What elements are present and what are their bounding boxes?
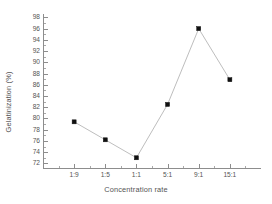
y-tick-label: 92 [33, 48, 40, 55]
y-tick-label: 90 [33, 59, 40, 66]
y-tick-label: 82 [33, 104, 40, 111]
y-tick-label: 76 [33, 138, 40, 145]
data-point [197, 27, 201, 31]
data-point [228, 78, 232, 82]
y-axis-title: Gelatinization (%) [0, 0, 16, 204]
y-tick-label: 86 [33, 81, 40, 88]
data-point [166, 102, 170, 106]
x-tick-label: 5:1 [163, 172, 172, 179]
x-tick-label: 15:1 [223, 172, 236, 179]
data-point [72, 120, 76, 124]
data-series-layer [43, 14, 261, 169]
y-tick-label: 84 [33, 93, 40, 100]
y-tick-label: 78 [33, 126, 40, 133]
y-tick-label: 94 [33, 37, 40, 44]
x-tick-label: 1:5 [101, 172, 110, 179]
y-tick-label: 96 [33, 25, 40, 32]
y-tick-label: 80 [33, 115, 40, 122]
data-point [103, 138, 107, 142]
y-tick-label: 98 [33, 14, 40, 21]
plot-area: 7274767880828486889092949698 1:91:51:15:… [43, 14, 261, 169]
x-tick-label: 9:1 [194, 172, 203, 179]
chart-figure: Gelatinization (%) Concentration rate 72… [0, 0, 272, 204]
series-markers [72, 27, 232, 160]
y-tick-label: 88 [33, 70, 40, 77]
series-line [74, 29, 230, 158]
y-tick-label: 74 [33, 149, 40, 156]
x-tick-label: 1:1 [132, 172, 141, 179]
data-point [134, 156, 138, 160]
y-tick-label: 72 [33, 160, 40, 167]
x-axis-title: Concentration rate [0, 185, 272, 194]
x-tick-label: 1:9 [70, 172, 79, 179]
